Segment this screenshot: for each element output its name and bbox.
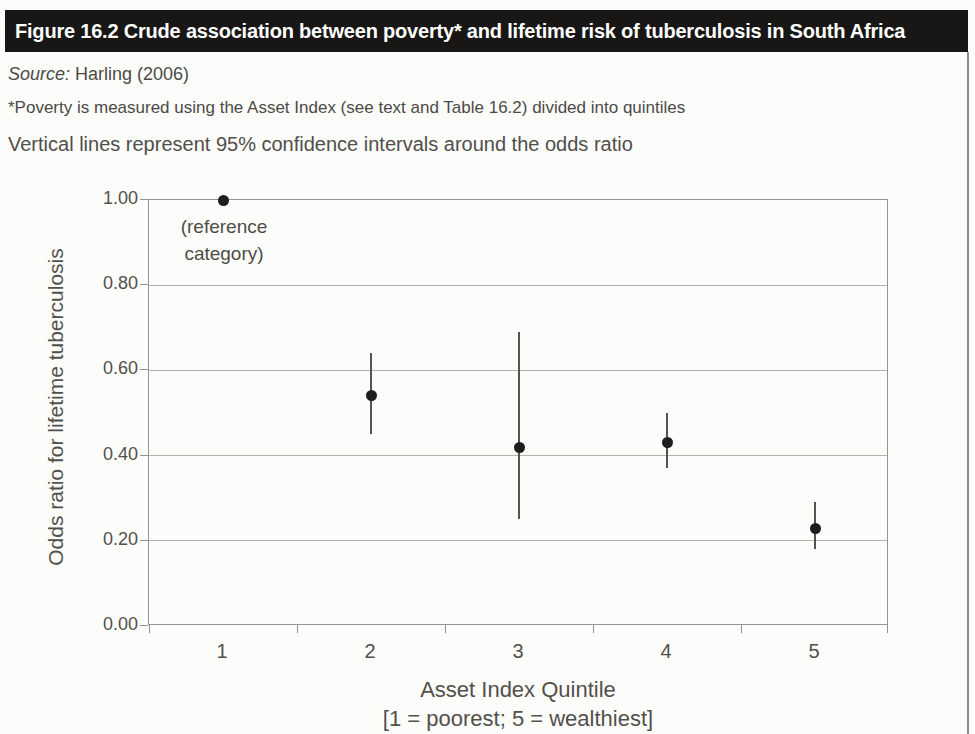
y-tick-mark bbox=[140, 625, 148, 626]
x-tick-mark bbox=[297, 625, 298, 633]
y-tick-mark bbox=[140, 199, 148, 200]
source-text: Harling (2006) bbox=[75, 64, 189, 84]
gridline bbox=[149, 285, 887, 286]
x-tick-label: 1 bbox=[216, 640, 227, 663]
x-axis-subtitle: [1 = poorest; 5 = wealthiest] bbox=[148, 706, 888, 732]
y-tick-label: 0.60 bbox=[78, 358, 138, 379]
reference-category-annotation: (reference category) bbox=[151, 213, 297, 267]
confidence-interval-note: Vertical lines represent 95% confidence … bbox=[8, 133, 633, 156]
x-tick-label: 4 bbox=[660, 640, 671, 663]
x-tick-label: 3 bbox=[512, 640, 523, 663]
poverty-footnote: *Poverty is measured using the Asset Ind… bbox=[8, 98, 685, 118]
x-axis-tick-labels: 12345 bbox=[148, 640, 888, 666]
confidence-interval-line bbox=[518, 332, 520, 519]
figure-page: Figure 16.2 Crude association between po… bbox=[0, 0, 975, 734]
gridline bbox=[149, 540, 887, 541]
data-point bbox=[514, 442, 525, 453]
x-tick-mark bbox=[593, 625, 594, 633]
figure-title: Figure 16.2 Crude association between po… bbox=[15, 20, 905, 43]
y-tick-mark bbox=[140, 369, 148, 370]
reference-annotation-line2: category) bbox=[151, 240, 297, 267]
source-label: Source: bbox=[8, 64, 70, 84]
x-axis-title: Asset Index Quintile bbox=[148, 677, 888, 703]
data-point bbox=[366, 390, 377, 401]
data-point bbox=[218, 195, 229, 206]
reference-annotation-line1: (reference bbox=[151, 213, 297, 240]
y-axis-title: Odds ratio for lifetime tuberculosis bbox=[44, 248, 68, 565]
data-point bbox=[662, 437, 673, 448]
source-line: Source: Harling (2006) bbox=[8, 64, 189, 85]
x-tick-mark bbox=[149, 625, 150, 633]
y-tick-label: 0.20 bbox=[78, 529, 138, 550]
y-tick-label: 1.00 bbox=[78, 188, 138, 209]
x-tick-label: 2 bbox=[364, 640, 375, 663]
y-tick-mark bbox=[140, 540, 148, 541]
data-point bbox=[810, 523, 821, 534]
x-tick-mark bbox=[741, 625, 742, 633]
y-tick-mark bbox=[140, 455, 148, 456]
x-tick-mark bbox=[887, 625, 888, 633]
y-tick-label: 0.40 bbox=[78, 444, 138, 465]
y-tick-mark bbox=[140, 284, 148, 285]
y-tick-label: 0.00 bbox=[78, 614, 138, 635]
page-edge-line bbox=[967, 52, 969, 734]
y-tick-label: 0.80 bbox=[78, 273, 138, 294]
figure-title-bar: Figure 16.2 Crude association between po… bbox=[5, 10, 968, 52]
x-tick-mark bbox=[445, 625, 446, 633]
plot-area: (reference category) bbox=[148, 199, 888, 625]
x-tick-label: 5 bbox=[808, 640, 819, 663]
